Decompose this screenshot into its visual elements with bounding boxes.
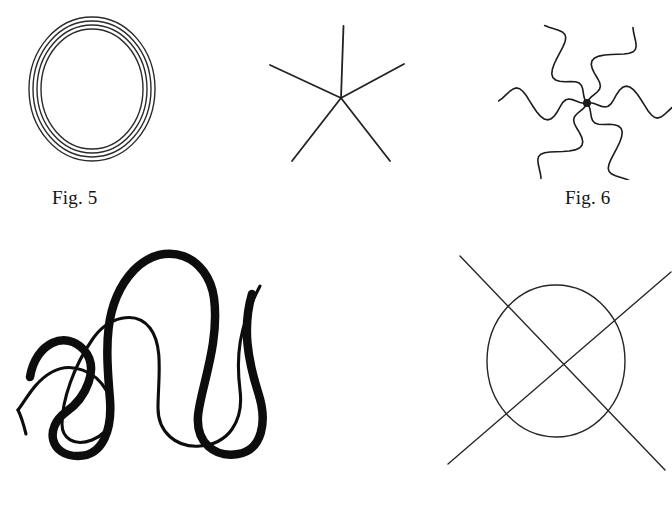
figure-9-artwork (390, 232, 672, 492)
wavy-arm-2 (587, 86, 672, 118)
ray-lower-left (292, 98, 341, 161)
figure-panel-fig5: Fig. 5 (0, 0, 250, 215)
tangent-line-a (460, 256, 665, 470)
tangent-line-b (448, 272, 671, 464)
asterisk-rays-group (270, 26, 404, 161)
circle-and-lines-group (448, 256, 671, 470)
wavy-arm-3 (587, 103, 629, 180)
ring-inner-4 (41, 29, 143, 149)
wavy-arm-1 (587, 28, 636, 103)
wavy-arm-5 (499, 88, 587, 120)
ray-upper-right (341, 64, 404, 98)
concentric-rings-group (29, 17, 155, 161)
drawing-sheet: Fig. 5 Fig. 6 Fig. 7 (0, 0, 672, 514)
wavy-arm-4 (538, 103, 587, 178)
ring-3 (37, 25, 147, 153)
figure-panel-fig7: Fig. 7 (480, 0, 672, 215)
ring-outer-1 (29, 17, 155, 161)
figure-5-artwork (0, 0, 250, 180)
tangent-circle (487, 285, 625, 437)
wavy-arm-6 (545, 25, 587, 103)
ray-upper-left (270, 65, 341, 98)
figure-8-artwork (0, 232, 290, 462)
figure-panel-fig8: Fig. 8 (0, 232, 290, 514)
ring-2 (33, 21, 151, 157)
figure-panel-fig9: Fig. 9 (390, 232, 672, 514)
ray-up (341, 26, 344, 98)
figure-caption-fig5: Fig. 5 (52, 188, 98, 208)
figure-6-artwork (255, 0, 430, 180)
filament-thick-main (30, 254, 263, 456)
filament-tail-left (18, 410, 26, 434)
figure-panel-fig6: Fig. 6 (255, 0, 430, 215)
center-hub (583, 99, 591, 107)
figure-7-artwork (480, 0, 672, 180)
ray-lower-right (341, 98, 390, 161)
tangled-filament-group (18, 254, 263, 456)
